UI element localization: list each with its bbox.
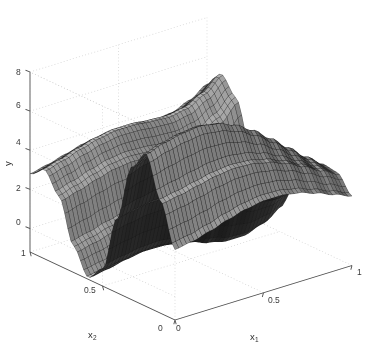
y-axis-tick-8: 8 — [16, 68, 21, 77]
x2-axis-tick-05: 0.5 — [84, 286, 96, 295]
y-axis-label: y — [3, 161, 13, 166]
x1-axis-label-sub: 1 — [255, 336, 259, 343]
x2-axis-tick-1: 1 — [21, 249, 26, 258]
y-axis-tick-0: 0 — [16, 218, 21, 227]
x2-axis-label-sub: 2 — [93, 334, 97, 341]
surface-plot-figure: 8 6 4 2 0 y 1 0.5 0 x2 0 0.5 1 x1 — [0, 0, 375, 354]
y-axis-tick-6: 6 — [16, 101, 21, 110]
x2-axis-label: x2 — [88, 330, 96, 340]
y-axis-tick-2: 2 — [16, 184, 21, 193]
y-axis-tick-4: 4 — [16, 138, 21, 147]
surface-mesh-canvas — [0, 0, 375, 354]
x1-axis-tick-1: 1 — [357, 268, 362, 277]
x1-axis-label: x1 — [250, 332, 258, 342]
x1-axis-tick-0: 0 — [176, 324, 181, 333]
x1-axis-tick-05: 0.5 — [268, 296, 280, 305]
x2-axis-tick-0: 0 — [158, 324, 163, 333]
y-axis-label-wrap: y — [2, 154, 14, 170]
